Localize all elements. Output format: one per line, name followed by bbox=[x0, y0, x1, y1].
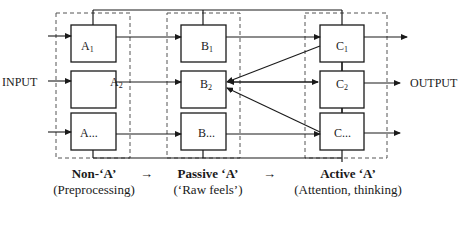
box-b1-label: B1 bbox=[201, 40, 213, 56]
output-arrows bbox=[364, 37, 407, 133]
stage-non-a-subtitle: (Preprocessing) bbox=[43, 182, 145, 198]
stage-arrow-2: → bbox=[263, 166, 276, 182]
box-b-more-label: B... bbox=[198, 127, 215, 139]
stage-passive-a: Passive ‘A’ (‘Raw feels’) bbox=[165, 166, 251, 198]
box-a-more-label: A... bbox=[80, 127, 98, 139]
box-a1-label: A1 bbox=[81, 40, 94, 56]
stage-active-a-title: Active ‘A’ bbox=[288, 166, 408, 182]
c-to-b2-feedback-arrows bbox=[227, 46, 320, 132]
a-to-b-arrows bbox=[116, 37, 181, 134]
stage-active-a: Active ‘A’ (Attention, thinking) bbox=[288, 166, 408, 198]
stage-active-a-subtitle: (Attention, thinking) bbox=[288, 182, 408, 198]
stage-passive-a-title: Passive ‘A’ bbox=[165, 166, 251, 182]
box-b2-label: B2 bbox=[200, 78, 212, 94]
box-a2-label: A2 bbox=[110, 76, 123, 92]
stage-non-a: Non-‘A’ (Preprocessing) bbox=[43, 166, 145, 198]
input-arrows bbox=[48, 36, 71, 132]
stage-arrow-1: → bbox=[140, 166, 153, 182]
box-c2-label: C2 bbox=[336, 78, 348, 94]
stage-non-a-title: Non-‘A’ bbox=[43, 166, 145, 182]
box-c-more-label: C... bbox=[334, 127, 351, 139]
stage-passive-a-subtitle: (‘Raw feels’) bbox=[165, 182, 251, 198]
output-label: OUTPUT bbox=[410, 77, 457, 89]
input-label: INPUT bbox=[2, 76, 37, 88]
box-c1-label: C1 bbox=[336, 40, 348, 56]
